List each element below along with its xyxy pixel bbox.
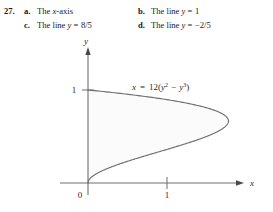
eq-term1-exp: 2 (165, 82, 168, 88)
eq-minus: − (171, 82, 176, 92)
y-axis-arrow (85, 47, 90, 55)
x-axis-arrow (236, 180, 244, 185)
eq-equals: = (140, 82, 145, 92)
graph-svg: y x 1 1 0 x=12(y2−y3) (0, 30, 273, 212)
problem-block: 27. a. The x-axis b. The line y = 1 c. T… (4, 5, 269, 32)
x-tick-label-1: 1 (165, 190, 170, 200)
problem-number: 27. (4, 5, 24, 19)
x-axis-label: x (249, 178, 254, 188)
y-axis-label: y (83, 36, 88, 46)
eq-close: ) (186, 82, 189, 92)
eq-coefficient: 12( (149, 82, 161, 92)
curve-equation-label: x=12(y2−y3) (131, 82, 189, 92)
option-b-text: The line y = 1 (151, 5, 199, 19)
problem-row-top: 27. a. The x-axis b. The line y = 1 (4, 5, 269, 19)
option-a[interactable]: a. The x-axis (24, 5, 138, 19)
option-a-label: a. (24, 5, 37, 19)
option-a-text: The x-axis (37, 5, 73, 19)
option-b[interactable]: b. The line y = 1 (138, 5, 263, 19)
origin-label: 0 (78, 190, 83, 200)
y-tick-label-1: 1 (72, 85, 77, 95)
figure-graph: y x 1 1 0 x=12(y2−y3) (0, 30, 273, 212)
exercise-page: 27. a. The x-axis b. The line y = 1 c. T… (0, 0, 273, 212)
eq-lhs: x (131, 82, 136, 92)
option-b-label: b. (138, 5, 151, 19)
